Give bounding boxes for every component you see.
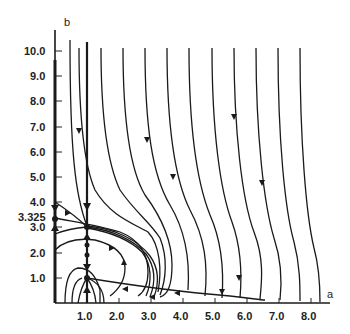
svg-text:7.0: 7.0 bbox=[269, 310, 284, 322]
svg-text:6.0: 6.0 bbox=[30, 146, 45, 158]
svg-text:1.0: 1.0 bbox=[30, 272, 45, 284]
arrow-left-icon bbox=[149, 294, 155, 300]
arrow-down-icon bbox=[51, 205, 59, 212]
x-axis-label: a bbox=[327, 288, 334, 300]
arrow-down-icon bbox=[83, 264, 91, 271]
x-tick-labels: 1.0 2.0 3.0 4.0 5.0 6.0 7.0 8.0 bbox=[77, 298, 316, 322]
fixed-point-lower bbox=[84, 275, 90, 281]
svg-text:6.0: 6.0 bbox=[237, 310, 252, 322]
arrow-down-icon bbox=[219, 289, 225, 295]
arrow-down-icon bbox=[83, 203, 91, 211]
svg-text:4.0: 4.0 bbox=[30, 196, 45, 208]
svg-text:8.0: 8.0 bbox=[30, 95, 45, 107]
arrow-down-icon bbox=[170, 174, 176, 180]
phase-portrait: b a 1.0 2.0 3.0 4.0 5.0 6.0 7.0 8.0 1.0 … bbox=[0, 0, 350, 334]
arrow-up-icon bbox=[83, 286, 91, 293]
svg-text:10.0: 10.0 bbox=[24, 45, 45, 57]
arrow-down-icon bbox=[144, 137, 150, 143]
fixed-point-saddle bbox=[84, 224, 90, 230]
svg-text:9.0: 9.0 bbox=[30, 70, 45, 82]
svg-text:5.0: 5.0 bbox=[30, 171, 45, 183]
svg-text:5.0: 5.0 bbox=[205, 310, 220, 322]
svg-text:4.0: 4.0 bbox=[173, 310, 188, 322]
arrow-down-icon bbox=[76, 128, 82, 134]
arrow-up-icon bbox=[83, 233, 91, 240]
arrow-left-icon bbox=[122, 286, 128, 292]
fixed-point-b-axis bbox=[52, 216, 58, 222]
svg-text:2.0: 2.0 bbox=[109, 310, 124, 322]
svg-text:3.325: 3.325 bbox=[18, 211, 46, 223]
y-axis-label: b bbox=[64, 16, 70, 28]
svg-text:3.0: 3.0 bbox=[141, 310, 156, 322]
trajectories-saddle bbox=[55, 40, 157, 297]
svg-text:7.0: 7.0 bbox=[30, 121, 45, 133]
fixed-points bbox=[52, 216, 90, 281]
trajectories-right bbox=[79, 48, 320, 302]
arrow-down-icon bbox=[121, 259, 127, 265]
svg-text:2.0: 2.0 bbox=[30, 247, 45, 259]
svg-text:1.0: 1.0 bbox=[77, 310, 92, 322]
svg-text:8.0: 8.0 bbox=[301, 310, 316, 322]
